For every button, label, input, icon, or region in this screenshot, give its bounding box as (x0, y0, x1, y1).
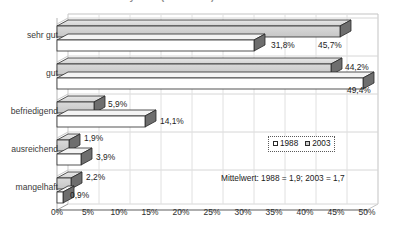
x-tick-7: 35% (266, 207, 283, 217)
x-tick-1: 5% (82, 207, 94, 217)
value-label-befriedigend-1988: 14,1% (160, 116, 184, 126)
legend-label-2003: 2003 (312, 139, 330, 148)
x-tick-6: 30% (235, 207, 252, 217)
value-label-ausreichend-1988: 3,9% (96, 152, 115, 162)
x-tick-0: 0% (51, 207, 63, 217)
x-tick-8: 40% (297, 207, 314, 217)
legend-label-1988: 1988 (280, 139, 298, 148)
x-tick-4: 20% (173, 207, 190, 217)
value-label-mangelhaft-2003: 2,2% (86, 172, 105, 182)
value-label-layer: 31,8% 45,7% 44,2% 49,4% 5,9% 14,1% 1,9% … (0, 0, 393, 228)
value-label-gut-1988: 49,4% (347, 85, 371, 95)
value-label-mangelhaft-1988: 0,9% (70, 190, 89, 200)
legend[interactable]: 1988 2003 (268, 136, 335, 152)
mean-annotation: Mittelwert: 1988 = 1,9; 2003 = 1,7 (221, 173, 345, 183)
x-tick-2: 10% (111, 207, 128, 217)
legend-item-2003[interactable]: 2003 (305, 139, 330, 148)
x-tick-3: 15% (142, 207, 159, 217)
white-square-icon (273, 141, 278, 146)
x-tick-9: 45% (328, 207, 345, 217)
x-axis-labels: 0% 5% 10% 15% 20% 25% 30% 35% 40% 45% 50… (0, 207, 393, 221)
value-label-sehr-gut-1988: 31,8% (271, 40, 295, 50)
value-label-ausreichend-2003: 1,9% (84, 133, 103, 143)
legend-item-1988[interactable]: 1988 (273, 139, 298, 148)
value-label-gut-2003: 44,2% (345, 62, 369, 72)
x-tick-10: 50% (359, 207, 376, 217)
x-tick-5: 25% (204, 207, 221, 217)
value-label-befriedigend-2003: 5,9% (108, 99, 127, 109)
value-label-sehr-gut-2003: 45,7% (318, 40, 342, 50)
gray-square-icon (305, 141, 310, 146)
chart-container: Schulnoten-System (2003/1988) (0, 0, 393, 228)
